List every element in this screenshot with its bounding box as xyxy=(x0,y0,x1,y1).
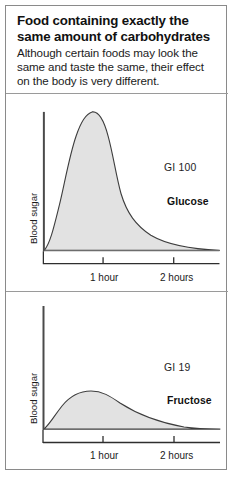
figure-subtitle: Although certain foods may look the same… xyxy=(17,46,218,89)
figure-card: Food containing exactly the same amount … xyxy=(5,5,227,470)
fructose-plot xyxy=(6,292,228,470)
figure-header: Food containing exactly the same amount … xyxy=(6,6,228,94)
figure-title: Food containing exactly the same amount … xyxy=(17,13,218,44)
fructose-area xyxy=(44,391,220,429)
glucose-area xyxy=(44,112,219,250)
chart-panel-glucose: Blood sugar GI 100 Glucose 1 hour 2 hour… xyxy=(6,94,228,292)
glucose-plot xyxy=(6,94,228,291)
chart-panel-fructose: Blood sugar GI 19 Fructose 1 hour 2 hour… xyxy=(6,292,228,470)
